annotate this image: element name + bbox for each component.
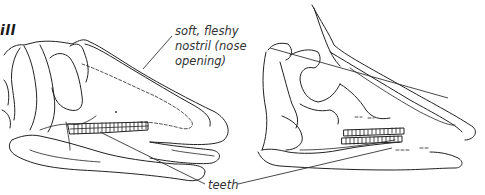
- right-skull-drawing: [258, 5, 475, 170]
- skull-illustrations: [0, 0, 485, 195]
- left-skull-drawing: [2, 40, 228, 181]
